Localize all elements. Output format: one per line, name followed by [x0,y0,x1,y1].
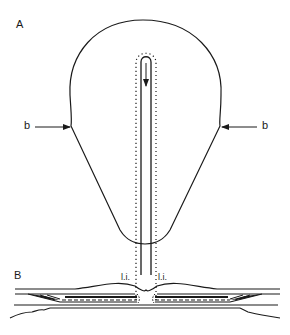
li-label-right: l.i. [158,272,167,282]
arrow-label-left: b [24,119,30,131]
panel-b-label: B [14,269,21,281]
arrow-label-right: b [262,119,268,131]
diagram: A B b b l.i. l.i. [0,0,290,335]
panel-a-label: A [16,18,24,30]
central-tube [141,57,151,275]
dotted-envelope [136,53,156,300]
li-label-left: l.i. [121,272,130,282]
panel-b-section: l.i. l.i. [10,272,280,318]
